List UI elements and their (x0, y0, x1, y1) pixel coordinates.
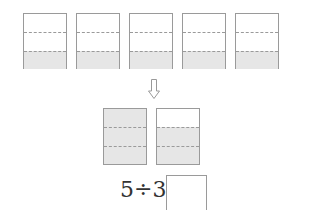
result-bar-1 (103, 108, 147, 165)
fraction-bar-3 (129, 13, 173, 69)
fraction-bar-1 (23, 13, 67, 69)
fraction-bar-2 (76, 13, 120, 69)
fraction-bar-5 (235, 13, 279, 69)
answer-box[interactable] (166, 175, 207, 210)
down-arrow-icon (148, 79, 160, 99)
result-bar-2 (156, 108, 200, 165)
fraction-bar-4 (182, 13, 226, 69)
